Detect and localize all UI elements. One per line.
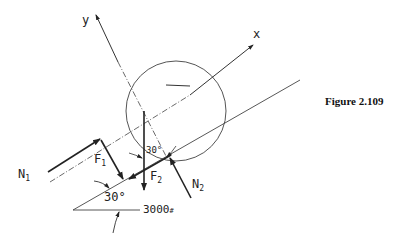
incline-angle-label: 30° [104,190,126,204]
n2-label: N2 [192,177,204,193]
y-axis-label: y [82,13,89,27]
center-angle-label: 30° [146,145,162,155]
f1-label: F1 [94,152,106,168]
angle-pointer-upper [94,181,109,188]
free-body-diagram: y x N1 F1 F2 N2 30° 30° 3000# [0,0,414,249]
n1-label: N1 [18,167,30,183]
x-axis [190,45,253,95]
radius-mark [166,85,190,86]
n2-force-arrow [170,158,191,198]
x-axis-centerline [50,95,190,182]
angle-pointer-lower [113,212,119,233]
f2-label: F2 [150,169,162,185]
figure-caption: Figure 2.109 [325,95,383,107]
weight-label: 3000# [143,203,175,216]
x-axis-label: x [253,27,260,41]
angle-pointer-center-left [129,153,142,158]
y-axis [96,15,118,62]
